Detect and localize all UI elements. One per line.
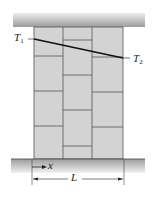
label-t1: T1 [14,31,24,45]
brick-wall [34,27,123,159]
ground [11,159,145,173]
top-slab [13,13,145,27]
label-L: L [71,171,77,183]
label-t2: T2 [133,52,143,66]
label-x: x [48,159,53,171]
